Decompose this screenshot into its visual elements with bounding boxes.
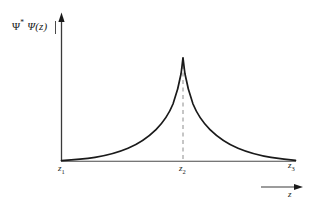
x-axis-arrowhead xyxy=(294,184,303,190)
y-axis-label: Ψ* Ψ(z) xyxy=(12,21,47,32)
quantum-probability-density-figure: Ψ* Ψ(z) z1 z2 z3 z xyxy=(0,0,315,205)
x-tick-z3-subscript: 3 xyxy=(292,165,295,172)
y-axis-label-function: Ψ(z) xyxy=(27,20,47,32)
x-tick-label-z3: z3 xyxy=(288,161,295,170)
x-tick-z1-subscript: 1 xyxy=(62,168,65,175)
x-tick-label-z2: z2 xyxy=(179,164,186,173)
x-axis-arrow-group xyxy=(261,184,303,190)
x-tick-label-z1: z1 xyxy=(58,164,65,173)
y-axis-group xyxy=(56,13,65,162)
x-axis-label: z xyxy=(288,190,292,199)
probability-density-curve xyxy=(62,58,296,161)
y-axis-arrowhead xyxy=(58,13,64,23)
x-tick-z2-subscript: 2 xyxy=(183,168,186,175)
